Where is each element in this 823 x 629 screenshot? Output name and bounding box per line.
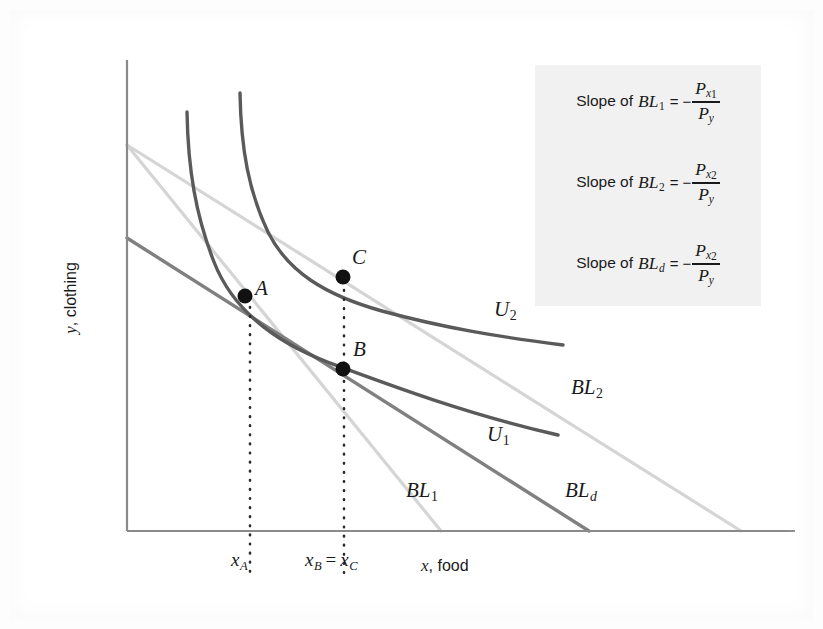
- legend-row-bld-var: BLd: [638, 253, 665, 274]
- point-marker-c: [336, 270, 351, 285]
- indifference-curve-u1: [187, 112, 558, 435]
- legend-row-bl2-den-base: P: [698, 184, 709, 204]
- curve-label-bld: BLd: [565, 478, 597, 505]
- legend-row-bl1-equals: =: [670, 93, 679, 110]
- legend-row-bld-numerator: Px2: [692, 241, 720, 262]
- legend-row-bl2-var-sub: 2: [659, 181, 665, 193]
- curve-label-u2-sub: 2: [510, 308, 517, 323]
- curve-label-bld-sub: d: [590, 489, 597, 504]
- curve-label-bl1: BL1: [406, 478, 438, 505]
- curve-label-u1: U1: [487, 422, 510, 449]
- curve-label-u2-base: U: [494, 297, 509, 321]
- legend-row-bld-den-base: P: [698, 265, 709, 285]
- tick-label-xa-base: x: [231, 549, 239, 570]
- tick-label-equals: =: [326, 549, 337, 570]
- legend-row-bl1: Slope of BL1 = − Px1 Py: [535, 79, 761, 124]
- legend-row-bl2-fraction: Px2 Py: [692, 160, 720, 205]
- curve-label-u1-sub: 1: [503, 433, 510, 448]
- y-axis-label-text: , clothing: [62, 262, 79, 326]
- legend-row-bl1-denominator: Py: [695, 104, 717, 124]
- legend-row-bld-var-sub: d: [659, 262, 665, 274]
- legend-row-bl1-text: Slope of: [576, 92, 633, 110]
- legend-row-bl1-minus: −: [683, 93, 692, 110]
- legend-row-bld-denominator: Py: [695, 266, 717, 286]
- tick-label-xa: xA: [231, 549, 248, 574]
- point-marker-b: [336, 362, 351, 377]
- curve-label-u2: U2: [494, 297, 517, 324]
- legend-row-bld-den-sub: y: [709, 274, 714, 286]
- legend-row-bl2-numerator: Px2: [692, 160, 720, 181]
- legend-row-bld-var-base: BL: [638, 253, 658, 273]
- point-marker-a: [238, 289, 253, 304]
- legend-row-bl2-equals: =: [670, 174, 679, 191]
- legend-row-bl2: Slope of BL2 = − Px2 Py: [535, 160, 761, 205]
- y-axis-label-var: y: [61, 326, 80, 334]
- point-label-b: B: [353, 337, 366, 362]
- tick-label-xb-base: x: [305, 549, 313, 570]
- legend-row-bl1-var-base: BL: [638, 91, 658, 111]
- legend-row-bl1-den-base: P: [698, 103, 709, 123]
- point-label-a: A: [255, 276, 268, 301]
- legend-row-bl2-text: Slope of: [576, 173, 633, 191]
- legend-row-bl2-var-base: BL: [638, 172, 658, 192]
- x-axis-label: x, food: [421, 556, 469, 576]
- tick-label-xa-sub: A: [240, 559, 248, 573]
- legend-row-bl2-minus: −: [683, 174, 692, 191]
- legend-row-bl2-num-base: P: [695, 159, 706, 179]
- point-label-c: C: [352, 245, 366, 270]
- curve-label-bl2-sub: 2: [596, 386, 603, 401]
- budget-line-bld: [127, 238, 589, 531]
- legend-row-bl1-var: BL1: [638, 91, 665, 112]
- slope-legend-box: Slope of BL1 = − Px1 Py Slope of BL2 = −…: [535, 65, 761, 306]
- curve-label-bl2: BL2: [571, 375, 603, 402]
- tick-label-xc-sub: C: [349, 559, 357, 573]
- curve-label-bl1-sub: 1: [431, 489, 438, 504]
- tick-label-xc-base: x: [340, 549, 348, 570]
- curve-label-u1-base: U: [487, 422, 502, 446]
- legend-row-bl1-num-base: P: [695, 78, 706, 98]
- legend-row-bl1-numerator: Px1: [692, 79, 720, 100]
- legend-row-bl2-denominator: Py: [695, 185, 717, 205]
- y-axis-label: y, clothing: [61, 218, 81, 378]
- legend-row-bld: Slope of BLd = − Px2 Py: [535, 241, 761, 286]
- legend-row-bl1-fraction: Px1 Py: [692, 79, 720, 124]
- curve-label-bl1-base: BL: [406, 478, 431, 502]
- legend-row-bl2-num-subnum: 2: [711, 169, 717, 181]
- legend-row-bld-text: Slope of: [576, 254, 633, 272]
- tick-label-xb-xc: xB=xC: [305, 549, 358, 574]
- legend-row-bl1-var-sub: 1: [659, 100, 665, 112]
- legend-row-bl2-var: BL2: [638, 172, 665, 193]
- legend-row-bl2-den-sub: y: [709, 193, 714, 205]
- legend-row-bld-equals: =: [670, 255, 679, 272]
- legend-row-bld-num-subnum: 2: [711, 250, 717, 262]
- x-axis-label-text: , food: [429, 557, 469, 574]
- legend-row-bl1-den-sub: y: [709, 112, 714, 124]
- legend-row-bld-num-base: P: [695, 240, 706, 260]
- tick-label-xb-sub: B: [314, 559, 322, 573]
- legend-row-bld-minus: −: [683, 255, 692, 272]
- legend-row-bl1-num-subnum: 1: [711, 88, 717, 100]
- economics-diagram: A B C U2 U1 BL2 BL1 BLd xA xB=xC x, food…: [0, 0, 823, 629]
- x-axis-label-var: x: [421, 556, 429, 575]
- legend-row-bld-fraction: Px2 Py: [692, 241, 720, 286]
- curve-label-bl2-base: BL: [571, 375, 596, 399]
- curve-label-bld-base: BL: [565, 478, 590, 502]
